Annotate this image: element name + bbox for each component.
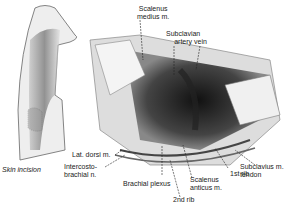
surgical-field-drawing xyxy=(90,35,280,165)
arm-drawing xyxy=(18,6,77,161)
label-subclavius-tendon: Subclavius m. tendon xyxy=(240,163,284,178)
label-intercostobrachial: Intercosto- brachial n. xyxy=(64,163,97,178)
label-second-rib: 2nd rib xyxy=(173,196,194,204)
label-subclavian-vein: vein xyxy=(194,38,207,46)
label-brachial-plexus: Brachial plexus xyxy=(123,180,170,188)
label-lat-dorsi: Lat. dorsi m. xyxy=(72,151,111,159)
label-skin-incision: Skin incision xyxy=(2,166,41,174)
label-scalenus-medius: Scalenus medius m. xyxy=(137,5,169,20)
label-scalenus-anticus: Scalenus anticus m. xyxy=(190,176,222,191)
